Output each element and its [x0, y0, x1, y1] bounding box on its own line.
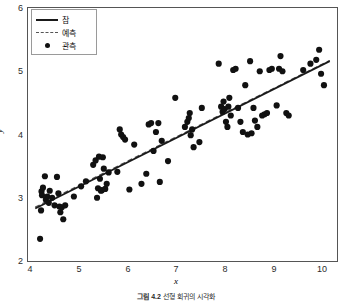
x-tick-label: 6 [116, 264, 140, 274]
legend-item-observation: 관측 [32, 39, 96, 52]
y-tick-label: 6 [0, 3, 23, 13]
legend-label: 참 [62, 14, 69, 25]
legend: 참 예측 관측 [31, 9, 97, 55]
x-tick-label: 10 [310, 264, 334, 274]
x-tick-label: 9 [262, 264, 286, 274]
x-axis-label: x [0, 276, 352, 286]
dot-marker-icon [32, 43, 62, 48]
y-tick-label: 3 [0, 193, 23, 203]
caption-number: 그림 4.2 [137, 293, 161, 300]
legend-item-prediction: 예측 [32, 26, 96, 39]
figure-container: 6 5 4 3 2 y 참 예측 관측 4 5 6 7 8 9 10 x [0, 0, 352, 303]
x-tick-label: 7 [164, 264, 188, 274]
caption-text: 선형 회귀의 시각화 [163, 293, 215, 300]
legend-label: 관측 [62, 40, 76, 51]
y-tick-label: 5 [0, 66, 23, 76]
x-tick-label: 5 [67, 264, 91, 274]
x-tick-label: 8 [213, 264, 237, 274]
observation-points [37, 47, 327, 242]
x-tick-label: 4 [18, 264, 42, 274]
legend-label: 예측 [62, 27, 76, 38]
dashed-line-icon [32, 32, 62, 33]
figure-caption: 그림 4.2 선형 회귀의 시각화 [0, 291, 352, 301]
y-axis-label: y [0, 129, 4, 133]
solid-line-icon [32, 19, 62, 21]
legend-item-true: 참 [32, 13, 96, 26]
